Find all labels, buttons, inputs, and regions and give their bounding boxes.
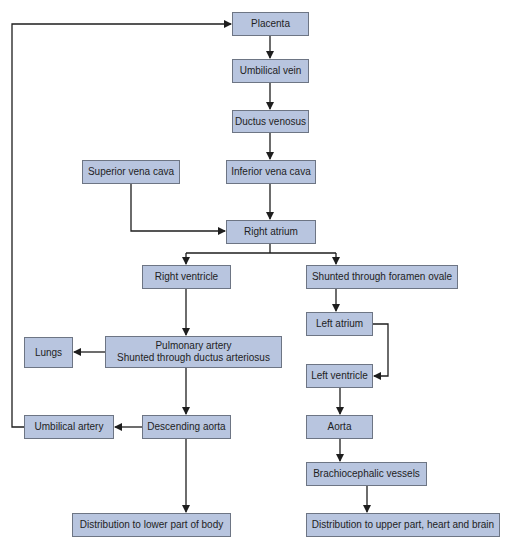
node-inferior-vena-cava: Inferior vena cava bbox=[226, 160, 316, 184]
node-label-line2: Shunted through ductus arteriosus bbox=[117, 352, 270, 364]
node-label: Placenta bbox=[251, 18, 290, 30]
node-aorta: Aorta bbox=[306, 415, 373, 439]
node-label: Right ventricle bbox=[155, 271, 218, 283]
node-label: Ductus venosus bbox=[235, 116, 306, 128]
node-label: Shunted through foramen ovale bbox=[312, 271, 452, 283]
node-label: Inferior vena cava bbox=[231, 166, 311, 178]
node-distribution-lower: Distribution to lower part of body bbox=[72, 513, 231, 537]
node-label: Brachiocephalic vessels bbox=[313, 468, 420, 480]
node-placenta: Placenta bbox=[232, 12, 309, 36]
node-label: Superior vena cava bbox=[88, 166, 174, 178]
node-label: Right atrium bbox=[244, 226, 298, 238]
node-umbilical-artery: Umbilical artery bbox=[24, 415, 114, 439]
node-descending-aorta: Descending aorta bbox=[142, 415, 231, 439]
node-superior-vena-cava: Superior vena cava bbox=[82, 160, 180, 184]
node-right-ventricle: Right ventricle bbox=[142, 265, 231, 289]
node-label: Lungs bbox=[35, 347, 62, 359]
node-right-atrium: Right atrium bbox=[226, 220, 316, 244]
node-label: Distribution to upper part, heart and br… bbox=[312, 519, 494, 531]
node-label: Descending aorta bbox=[147, 421, 225, 433]
node-label: Umbilical artery bbox=[35, 421, 104, 433]
node-distribution-upper: Distribution to upper part, heart and br… bbox=[306, 513, 500, 537]
node-brachiocephalic-vessels: Brachiocephalic vessels bbox=[306, 462, 427, 486]
node-label: Aorta bbox=[328, 421, 352, 433]
node-label-line1: Pulmonary artery bbox=[155, 340, 231, 352]
node-ductus-venosus: Ductus venosus bbox=[232, 110, 309, 133]
node-pulmonary-artery: Pulmonary artery Shunted through ductus … bbox=[105, 336, 282, 368]
node-label: Distribution to lower part of body bbox=[80, 519, 223, 531]
node-label: Left atrium bbox=[316, 318, 363, 330]
node-left-ventricle: Left ventricle bbox=[306, 364, 373, 388]
node-foramen-ovale: Shunted through foramen ovale bbox=[306, 265, 458, 289]
fetal-circulation-flowchart: Placenta Umbilical vein Ductus venosus S… bbox=[0, 0, 508, 559]
node-label: Left ventricle bbox=[311, 370, 368, 382]
node-umbilical-vein: Umbilical vein bbox=[232, 59, 309, 83]
node-lungs: Lungs bbox=[24, 337, 73, 368]
node-label: Umbilical vein bbox=[240, 65, 302, 77]
node-left-atrium: Left atrium bbox=[306, 312, 373, 336]
